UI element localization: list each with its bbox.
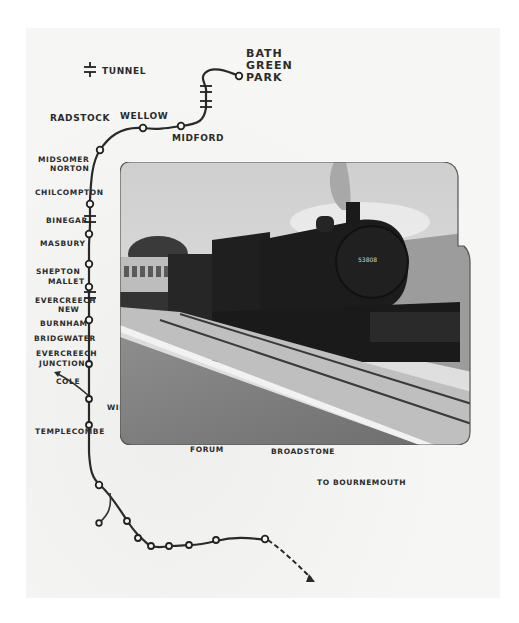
- loco-number-plate: 53808: [358, 256, 377, 263]
- label-cole: COLE: [56, 377, 80, 386]
- label-midford: MIDFORD: [172, 133, 224, 143]
- station-broadstone[interactable]: [262, 536, 269, 543]
- label-wellow: WELLOW: [120, 111, 168, 121]
- chimney: [346, 202, 360, 224]
- label-to-bournemouth: TO BOURNEMOUTH: [317, 478, 406, 487]
- terminus-arrow-icon: [306, 574, 315, 582]
- station-bath-green-park[interactable]: [236, 73, 243, 80]
- station-evercreech-new[interactable]: [86, 361, 92, 367]
- legend-tunnel-icon: [84, 62, 96, 77]
- label-mallet: MALLET: [48, 277, 85, 286]
- label-radstock: RADSTOCK: [50, 113, 110, 123]
- label-evercreech-jn-2: JUNCTION: [38, 359, 85, 368]
- label-park: PARK: [246, 71, 283, 84]
- station-midford[interactable]: [178, 123, 185, 130]
- label-masbury: MASBURY: [40, 239, 85, 248]
- label-evercreech-new-2: NEW: [58, 305, 80, 314]
- label-broadstone: BROADSTONE: [271, 447, 335, 456]
- station-unnamed[interactable]: [148, 543, 154, 549]
- label-binegar: BINEGAR: [46, 216, 88, 225]
- station-radstock[interactable]: [97, 147, 104, 154]
- label-norton: NORTON: [50, 164, 89, 173]
- dome: [316, 216, 334, 232]
- station-evercreech-junction[interactable]: [86, 396, 92, 402]
- route-line-to-bournemouth: [268, 540, 311, 578]
- station-wincanton[interactable]: [96, 482, 103, 489]
- station-binegar[interactable]: [86, 261, 93, 268]
- station-masbury[interactable]: [86, 284, 93, 291]
- label-templecombe: TEMPLECOMBE: [35, 427, 105, 436]
- station-chilcompton[interactable]: [86, 231, 93, 238]
- station-blandford-forum[interactable]: [213, 537, 219, 543]
- label-burnham: BURNHAM: [40, 319, 88, 328]
- label-evercreech-new-1: EVERCREECH: [35, 296, 96, 305]
- station-unnamed[interactable]: [166, 543, 172, 549]
- station-unnamed[interactable]: [135, 535, 141, 541]
- station-wellow[interactable]: [140, 125, 147, 132]
- label-shepton: SHEPTON: [36, 267, 80, 276]
- legend-tunnel-label: TUNNEL: [102, 66, 146, 76]
- station-midsomer-norton[interactable]: [87, 201, 94, 208]
- templecombe-spur: [99, 493, 111, 523]
- label-evercreech-jn-1: EVERCREECH: [36, 349, 97, 358]
- label-chilcompton: CHILCOMPTON: [35, 188, 104, 197]
- station-unnamed[interactable]: [124, 518, 130, 524]
- station-templecombe[interactable]: [96, 520, 102, 526]
- locomotive-photo: 53808: [120, 162, 472, 445]
- label-bridgwater: BRIDGWATER: [34, 334, 96, 343]
- label-forum: FORUM: [190, 445, 224, 454]
- label-midsomer: MIDSOMER: [38, 155, 89, 164]
- station-unnamed[interactable]: [186, 542, 192, 548]
